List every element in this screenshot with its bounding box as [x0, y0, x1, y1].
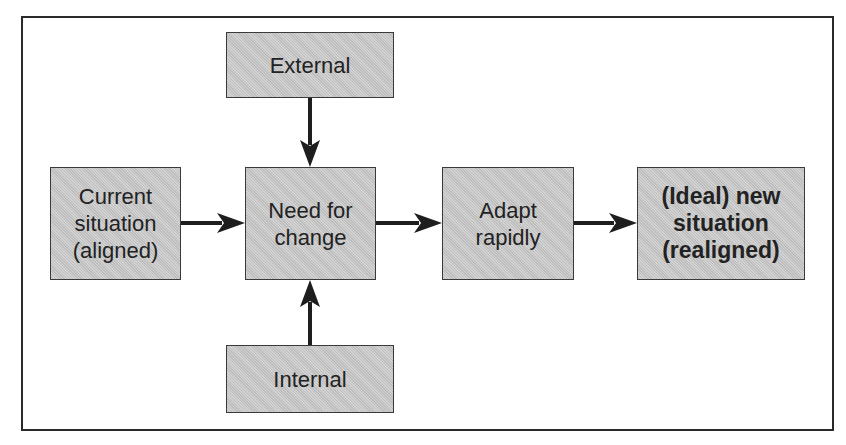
- node-current-situation: Current situation (aligned): [50, 167, 181, 280]
- node-need-for-change: Need for change: [245, 167, 376, 280]
- node-external: External: [226, 32, 394, 98]
- node-ideal-new-situation: (Ideal) new situation (realigned): [637, 167, 805, 280]
- node-adapt-rapidly: Adapt rapidly: [442, 167, 574, 280]
- node-internal: Internal: [226, 345, 394, 413]
